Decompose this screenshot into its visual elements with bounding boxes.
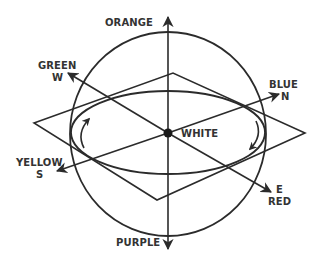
label-purple: PURPLE [116, 238, 160, 248]
label-yellow: YELLOW [16, 158, 63, 168]
label-west: W [52, 73, 63, 83]
rotation-arrow-right-icon [250, 121, 258, 149]
axis-green-arrow [68, 73, 168, 133]
origin-dot [164, 129, 173, 138]
label-white-center: WHITE [181, 129, 218, 139]
label-orange: ORANGE [105, 18, 153, 28]
label-blue: BLUE [269, 80, 298, 90]
diagram-graphics [0, 0, 323, 262]
label-green: GREEN [38, 61, 76, 71]
axis-yellow-arrow [57, 133, 168, 171]
label-south: S [36, 170, 43, 180]
direction-sphere-diagram: ORANGE PURPLE GREEN W BLUE N YELLOW S E … [0, 0, 323, 262]
label-east: E [276, 185, 283, 195]
rotation-arrow-left-icon [81, 119, 89, 148]
label-red: RED [268, 197, 291, 207]
label-north: N [281, 92, 289, 102]
